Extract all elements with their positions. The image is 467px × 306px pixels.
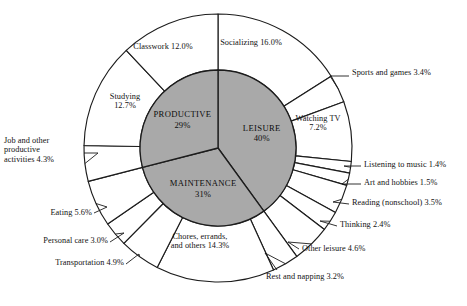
outer-segment-label-thinking: Thinking 2.4% <box>340 220 418 229</box>
sunburst-chart: LEISURE 40% MAINTENANCE 31% PRODUCTIVE 2… <box>0 0 467 306</box>
inner-segment-label-productive: PRODUCTIVE 29% <box>130 109 234 130</box>
outer-segment-label-eating: Eating 5.6% <box>28 208 92 217</box>
outer-segment-label-listening-music: Listening to music 1.4% <box>364 160 464 169</box>
inner-segment-name: PRODUCTIVE <box>153 109 211 119</box>
outer-segment-label-transportation: Transportation 4.9% <box>26 258 124 267</box>
leader-line <box>126 254 140 264</box>
outer-segment-label-watching-tv: Watching TV 7.2% <box>288 114 348 133</box>
inner-segment-label-maintenance: MAINTENANCE 31% <box>151 178 255 199</box>
inner-segment-value: 40% <box>210 133 314 143</box>
outer-segment-label-classwork: Classwork 12.0% <box>115 42 211 51</box>
inner-ring-wedges <box>140 70 296 226</box>
outer-segment-label-job-other: Job and other productive activities 4.3% <box>4 136 82 164</box>
outer-segment-label-personal-care: Personal care 3.0% <box>16 236 108 245</box>
outer-segment-label-studying: Studying 12.7% <box>97 92 153 111</box>
inner-segment-name: LEISURE <box>243 123 281 133</box>
outer-segment-label-other-leisure: Other leisure 4.6% <box>302 244 392 253</box>
inner-segment-value: 29% <box>130 120 234 130</box>
outer-segment-label-socializing: Socializing 16.0% <box>196 38 306 47</box>
inner-segment-value: 31% <box>151 189 255 199</box>
outer-segment-label-sports-games: Sports and games 3.4% <box>352 68 464 77</box>
outer-segment-label-reading: Reading (nonschool) 3.5% <box>352 198 464 207</box>
outer-segment-label-chores: Chores, errands, and others 14.3% <box>150 232 250 251</box>
inner-segment-name: MAINTENANCE <box>170 178 237 188</box>
outer-segment-label-art-hobbies: Art and hobbies 1.5% <box>364 178 458 187</box>
outer-segment-label-rest-napping: Rest and napping 3.2% <box>266 272 366 281</box>
